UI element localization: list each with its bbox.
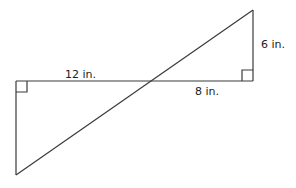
label-right-height: 6 in. bbox=[261, 38, 285, 51]
right-angle-marker-right bbox=[242, 70, 253, 81]
right-angle-marker-left bbox=[16, 81, 27, 92]
label-right-segment: 8 in. bbox=[195, 85, 219, 98]
diagram-canvas: 12 in. 8 in. 6 in. bbox=[0, 0, 296, 188]
label-left-segment: 12 in. bbox=[65, 68, 96, 81]
